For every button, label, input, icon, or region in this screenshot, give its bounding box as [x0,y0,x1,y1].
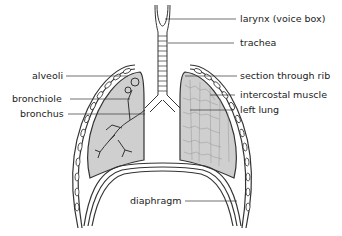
trachea [145,5,180,112]
label-bronchiole: bronchiole [12,93,62,104]
label-intercostal: intercostal muscle [240,89,327,100]
label-larynx: larynx (voice box) [240,13,325,24]
label-alveoli: alveoli [32,70,63,81]
label-rib: section through rib [240,70,330,81]
label-diaphragm: diaphragm [130,195,182,206]
left-lung [180,72,236,178]
label-bronchus: bronchus [20,108,64,119]
label-left-lung: left lung [240,104,279,115]
right-lung [88,72,144,178]
label-trachea: trachea [240,37,276,48]
